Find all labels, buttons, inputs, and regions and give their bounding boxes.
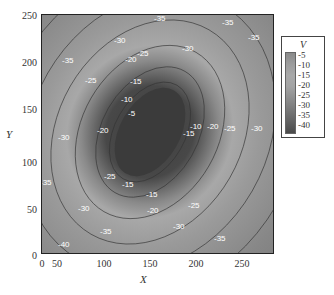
colorbar-tick: -40: [298, 121, 310, 130]
svg-text:-35: -35: [62, 56, 74, 65]
svg-text:-15: -15: [122, 180, 134, 189]
y-tick-50: 50: [13, 204, 37, 215]
svg-text:-10: -10: [121, 95, 133, 104]
y-tick-250: 250: [13, 10, 37, 21]
chart-plot-area: -35-35 -30-30 -35-25 -20-35 -25-15 -10-5…: [41, 14, 274, 254]
svg-text:-25: -25: [104, 172, 116, 181]
x-tick-250: 250: [227, 258, 257, 269]
svg-text:-25: -25: [85, 76, 97, 85]
colorbar-tick: -25: [298, 91, 310, 100]
svg-text:-5: -5: [128, 109, 136, 118]
x-tick-200: 200: [181, 258, 211, 269]
colorbar-title: V: [282, 39, 324, 50]
svg-text:-25: -25: [188, 201, 200, 210]
svg-text:-30: -30: [78, 204, 90, 213]
svg-text:-30: -30: [114, 36, 126, 45]
svg-text:-30: -30: [182, 44, 194, 53]
colorbar-tick: -10: [298, 61, 310, 70]
colorbar: V -5 -10 -15 -20 -25 -30 -35 -40: [281, 36, 325, 138]
svg-text:-20: -20: [97, 126, 109, 135]
colorbar-tick: -30: [298, 101, 310, 110]
colorbar-tick: -5: [298, 51, 306, 60]
x-axis-label: X: [140, 273, 147, 285]
svg-text:-35: -35: [154, 15, 166, 23]
svg-text:-35: -35: [222, 18, 234, 27]
svg-text:-35: -35: [42, 178, 52, 187]
x-tick-150: 150: [135, 258, 165, 269]
colorbar-gradient: [285, 52, 296, 134]
svg-text:-35: -35: [100, 227, 112, 236]
svg-text:-15: -15: [146, 190, 158, 199]
colorbar-tick: -35: [298, 111, 310, 120]
svg-text:-20: -20: [147, 206, 159, 215]
svg-text:-35: -35: [214, 234, 226, 243]
svg-text:-20: -20: [125, 55, 137, 64]
y-tick-200: 200: [13, 57, 37, 68]
y-axis-label: Y: [6, 128, 12, 140]
svg-text:-40: -40: [58, 240, 70, 249]
contour-plot: -35-35 -30-30 -35-25 -20-35 -25-15 -10-5…: [42, 15, 274, 254]
svg-text:-35: -35: [248, 33, 260, 42]
svg-text:-25: -25: [137, 49, 149, 58]
y-tick-150: 150: [13, 104, 37, 115]
svg-text:-15: -15: [183, 129, 195, 138]
y-tick-100: 100: [13, 157, 37, 168]
svg-text:-30: -30: [58, 133, 70, 142]
x-tick-100: 100: [89, 258, 119, 269]
svg-text:-15: -15: [130, 77, 142, 86]
svg-text:-25: -25: [224, 124, 236, 133]
colorbar-tick: -15: [298, 71, 310, 80]
svg-text:-30: -30: [251, 124, 263, 133]
svg-text:-30: -30: [173, 222, 185, 231]
x-tick-50: 50: [42, 258, 72, 269]
svg-text:-20: -20: [207, 122, 219, 131]
colorbar-tick: -20: [298, 81, 310, 90]
